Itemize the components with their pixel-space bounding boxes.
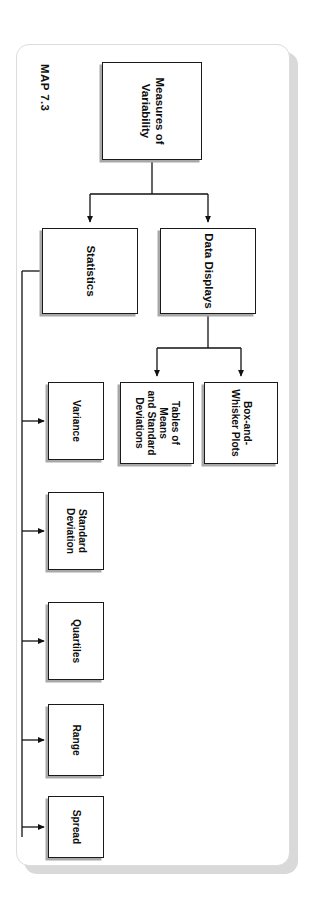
node-range[interactable]: Range	[48, 704, 104, 776]
node-label-line1: Standard	[76, 508, 88, 554]
node-label-line2: and Standard	[145, 386, 157, 460]
node-label-line2: Deviation	[64, 508, 76, 554]
page-card: Measures of Variability Data Displays St…	[16, 44, 290, 866]
node-label-line1: Tables of Means	[157, 386, 181, 460]
node-box-and-whisker-plots[interactable]: Box-and- Whisker Plots	[204, 382, 278, 464]
node-standard-deviation[interactable]: Standard Deviation	[48, 492, 104, 570]
node-measures-of-variability[interactable]: Measures of Variability	[102, 62, 202, 160]
node-quartiles[interactable]: Quartiles	[48, 602, 104, 680]
node-label: Data Displays	[201, 233, 215, 308]
node-label: Quartiles	[70, 619, 82, 663]
node-spread[interactable]: Spread	[48, 796, 104, 858]
map-number-label: MAP 7.3	[39, 64, 51, 111]
node-data-displays[interactable]: Data Displays	[160, 228, 256, 314]
node-tables-of-means-and-standard-deviations[interactable]: Tables of Means and Standard Deviations	[120, 382, 194, 464]
node-label: Statistics	[83, 245, 97, 296]
node-statistics[interactable]: Statistics	[42, 228, 138, 314]
node-label-line1: Measures of	[152, 77, 166, 144]
node-variance[interactable]: Variance	[48, 382, 104, 460]
node-label: Variance	[70, 400, 82, 442]
measures-of-variability-diagram: Measures of Variability Data Displays St…	[16, 44, 290, 866]
node-label-line2: Variability	[138, 77, 152, 144]
node-label-line2: Whisker Plots	[229, 389, 241, 456]
node-label: Spread	[70, 810, 82, 845]
node-label-line3: Deviations	[133, 386, 145, 460]
node-label-line1: Box-and-	[241, 389, 253, 456]
node-label: Range	[70, 724, 82, 755]
rotated-diagram-stage: Measures of Variability Data Displays St…	[16, 44, 290, 866]
